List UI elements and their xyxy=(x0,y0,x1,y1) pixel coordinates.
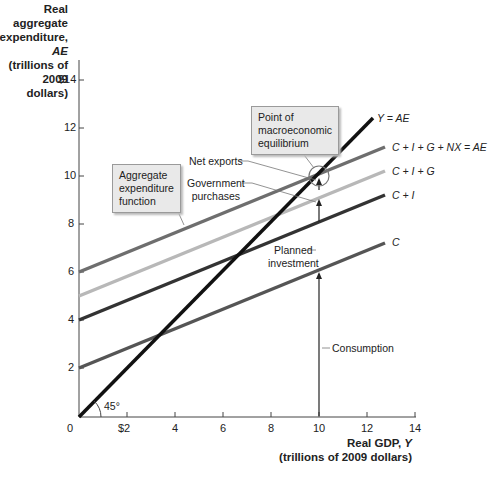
y-tick-4: 4 xyxy=(68,313,74,325)
label-total-ae: C + I + G + NX = AE xyxy=(392,141,487,153)
y-tick-2: 2 xyxy=(68,361,74,373)
government-purchases-label: Government purchases xyxy=(187,177,245,203)
label-cig: C + I + G xyxy=(392,165,435,177)
label-c: C xyxy=(392,236,400,248)
x-tick-0: 0 xyxy=(67,422,73,434)
y-tick-14: $14 xyxy=(58,73,76,85)
x-tick-12: 12 xyxy=(361,422,373,434)
x-tick-2: $2 xyxy=(118,422,130,434)
x-tick-10: 10 xyxy=(313,422,325,434)
equilibrium-callout: Point of macroeconomic equilibrium xyxy=(251,106,339,155)
angle-arc xyxy=(94,401,101,417)
angle-label: 45° xyxy=(104,400,120,413)
y-tick-10: 10 xyxy=(64,169,76,181)
line-ci xyxy=(79,195,385,320)
y-tick-12: 12 xyxy=(64,121,76,133)
y-tick-8: 8 xyxy=(68,217,74,229)
x-tick-14: 14 xyxy=(409,422,421,434)
net-exports-label: Net exports xyxy=(189,155,243,168)
x-axis-label: Real GDP, Y (trillions of 2009 dollars) xyxy=(279,436,412,464)
y-tick-6: 6 xyxy=(68,265,74,277)
consumption-label: Consumption xyxy=(332,342,394,355)
x-tick-8: 8 xyxy=(268,422,274,434)
ae-function-callout: Aggregate expenditure function xyxy=(112,164,181,213)
y-axis-label: Real aggregate expenditure, AE (trillion… xyxy=(0,2,68,100)
label-ci: C + I xyxy=(392,189,414,201)
x-tick-4: 4 xyxy=(172,422,178,434)
x-tick-6: 6 xyxy=(220,422,226,434)
label-y-equals-ae: Y = AE xyxy=(377,112,409,124)
planned-investment-label: Planned investment xyxy=(268,244,319,270)
